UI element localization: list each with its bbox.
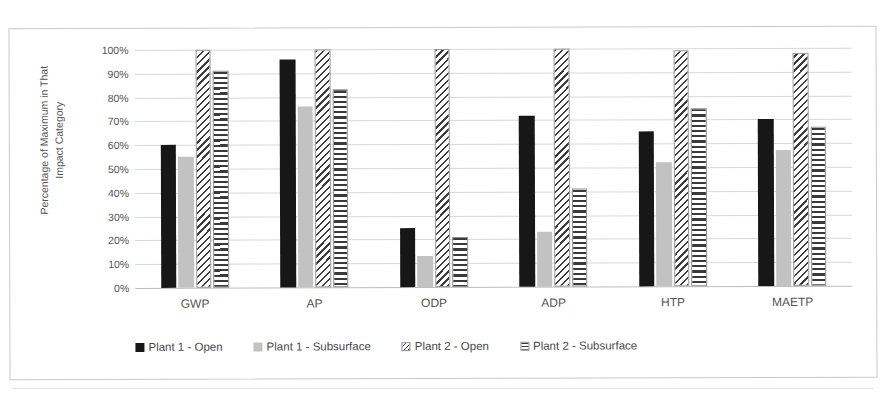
scanned-page-text-fragment bbox=[0, 0, 892, 16]
bar bbox=[758, 119, 774, 286]
y-axis-tick-label: 100% bbox=[80, 44, 128, 56]
bar bbox=[572, 189, 588, 287]
bar bbox=[315, 49, 331, 287]
legend-label: Plant 2 - Open bbox=[415, 340, 489, 352]
bar bbox=[793, 53, 809, 286]
y-axis-tick-label: 20% bbox=[81, 234, 129, 246]
y-axis-tick-label: 90% bbox=[81, 68, 129, 80]
bar-group bbox=[638, 48, 707, 286]
legend-swatch-icon bbox=[254, 342, 263, 351]
bar bbox=[673, 51, 689, 287]
x-axis-tick-label: GWP bbox=[181, 297, 210, 311]
bar-group bbox=[280, 49, 349, 287]
y-axis-tick-label: 50% bbox=[81, 163, 129, 175]
legend-swatch-icon bbox=[135, 342, 144, 351]
y-axis-tick-label: 80% bbox=[81, 92, 129, 104]
bar bbox=[811, 126, 827, 286]
y-axis-tick-label: 40% bbox=[81, 187, 129, 199]
bar bbox=[332, 90, 348, 288]
bar bbox=[691, 108, 707, 287]
y-axis-tick-label: 60% bbox=[81, 139, 129, 151]
bar bbox=[537, 232, 553, 287]
y-axis-tick-label: 0% bbox=[81, 282, 129, 294]
y-axis-tick-label: 30% bbox=[81, 211, 129, 223]
bar bbox=[639, 132, 655, 287]
bar bbox=[434, 49, 450, 287]
legend-item[interactable]: Plant 1 - Subsurface bbox=[254, 340, 371, 352]
bar-group bbox=[519, 49, 588, 287]
x-axis-ticks: GWPAPODPADPHTPMAETP bbox=[135, 295, 852, 317]
legend-item[interactable]: Plant 1 - Open bbox=[135, 341, 222, 353]
bar bbox=[417, 256, 433, 287]
bar-group bbox=[399, 49, 468, 287]
legend-swatch-icon bbox=[520, 341, 529, 350]
x-axis-tick-label: MAETP bbox=[772, 295, 813, 309]
bar-group bbox=[160, 50, 229, 288]
x-axis-tick-label: ODP bbox=[421, 296, 447, 310]
bar-series-layer bbox=[135, 48, 853, 288]
legend-label: Plant 1 - Subsurface bbox=[267, 340, 371, 352]
legend-item[interactable]: Plant 2 - Subsurface bbox=[520, 339, 637, 351]
bar bbox=[452, 237, 468, 287]
x-axis-tick-label: HTP bbox=[661, 295, 685, 309]
page-bottom-edge bbox=[12, 388, 874, 389]
bar bbox=[161, 145, 177, 288]
bar bbox=[554, 49, 570, 287]
bar bbox=[400, 228, 416, 288]
x-axis-tick-label: ADP bbox=[541, 296, 566, 310]
chart-legend: Plant 1 - OpenPlant 1 - SubsurfacePlant … bbox=[135, 339, 815, 353]
bar bbox=[280, 59, 296, 288]
bar bbox=[178, 157, 194, 288]
bar bbox=[297, 107, 313, 288]
bar bbox=[195, 50, 211, 288]
legend-item[interactable]: Plant 2 - Open bbox=[402, 340, 489, 352]
chart-frame: Percentage of Maximum in That Impact Cat… bbox=[8, 26, 877, 381]
y-axis-tick-label: 10% bbox=[81, 258, 129, 270]
bar bbox=[776, 150, 792, 286]
bar bbox=[656, 163, 672, 287]
legend-label: Plant 2 - Subsurface bbox=[533, 339, 637, 351]
bar bbox=[519, 115, 535, 286]
legend-label: Plant 1 - Open bbox=[148, 341, 222, 353]
y-axis-tick-label: 70% bbox=[81, 115, 129, 127]
bar bbox=[213, 71, 229, 288]
x-axis-tick-label: AP bbox=[307, 296, 323, 310]
y-axis-title: Percentage of Maximum in That Impact Cat… bbox=[36, 35, 67, 245]
bar-group bbox=[758, 48, 827, 286]
plot-area: 0%10%20%30%40%50%60%70%80%90%100% bbox=[135, 48, 853, 288]
legend-swatch-icon bbox=[402, 342, 411, 351]
